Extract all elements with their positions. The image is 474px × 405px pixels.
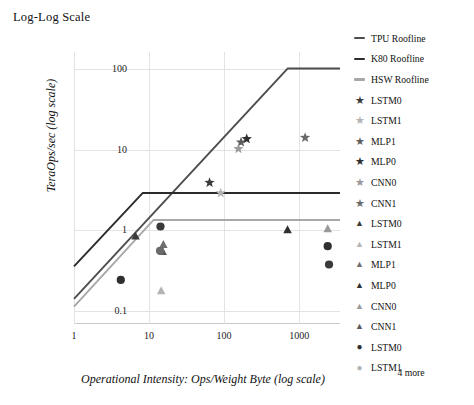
y-tick-label: 10 <box>87 144 127 155</box>
legend-more-label: 4 more <box>352 367 470 378</box>
star-icon: ★ <box>352 156 367 167</box>
legend-item-label: CNN1 <box>371 198 396 209</box>
legend-marker-glyph: ★ <box>355 198 365 209</box>
star-icon: ★ <box>352 177 367 188</box>
x-tick-label: 10 <box>129 330 169 341</box>
circle-icon: ● <box>352 342 367 352</box>
legend-item[interactable]: ★LSTM0 <box>352 90 470 111</box>
legend-marker-glyph: ▲ <box>355 240 364 249</box>
triangle-icon: ▲ <box>352 260 367 269</box>
legend-item[interactable]: ▲CNN1 <box>352 316 470 337</box>
legend-item-label: LSTM1 <box>371 239 402 250</box>
data-point-star <box>204 177 214 187</box>
star-icon: ★ <box>352 136 367 147</box>
y-tick-label: 100 <box>87 63 127 74</box>
legend-marker-glyph: ● <box>356 342 362 352</box>
triangle-icon: ▲ <box>352 281 367 290</box>
triangle-icon: ▲ <box>352 240 367 249</box>
y-tick-label: 0.1 <box>87 305 127 316</box>
x-tick-label: 100 <box>204 330 244 341</box>
y-tick-label: 1 <box>87 224 127 235</box>
line-icon <box>352 58 367 60</box>
x-axis-label: Operational Intensity: Ops/Weight Byte (… <box>38 372 368 387</box>
legend-item-label: LSTM1 <box>371 115 402 126</box>
triangle-icon: ▲ <box>352 322 367 331</box>
legend-item-label: CNN0 <box>371 177 396 188</box>
triangle-icon: ▲ <box>352 219 367 228</box>
legend-line-swatch <box>354 78 365 80</box>
legend-marker-glyph: ★ <box>355 136 365 147</box>
legend-item[interactable]: ●LSTM0 <box>352 337 470 358</box>
data-point-triangle <box>283 225 292 233</box>
legend-item[interactable]: ★CNN0 <box>352 172 470 193</box>
legend-marker-glyph: ★ <box>355 156 365 167</box>
legend-item[interactable]: TPU Roofline <box>352 28 470 49</box>
legend-marker-glyph: ★ <box>355 95 365 106</box>
legend-item[interactable]: ★CNN1 <box>352 193 470 214</box>
legend-line-swatch <box>354 37 365 39</box>
legend-item-label: MLP0 <box>371 156 396 167</box>
y-axis-label: TeraOps/sec (log scale) <box>44 41 59 231</box>
legend-item-label: MLP0 <box>371 280 396 291</box>
data-point-star <box>216 188 226 198</box>
line-icon <box>352 78 367 80</box>
legend-marker-glyph: ▲ <box>355 260 364 269</box>
data-point-circle <box>156 222 164 230</box>
data-point-triangle <box>159 240 168 248</box>
legend-item[interactable]: ▲LSTM1 <box>352 234 470 255</box>
data-point-circle <box>324 242 332 250</box>
legend-item-label: CNN0 <box>371 301 396 312</box>
legend-line-swatch <box>354 58 365 60</box>
legend-item[interactable]: ▲CNN0 <box>352 296 470 317</box>
legend-item[interactable]: ★MLP0 <box>352 152 470 173</box>
legend-item[interactable]: ▲MLP0 <box>352 275 470 296</box>
legend-marker-glyph: ★ <box>355 177 365 188</box>
page-title: Log-Log Scale <box>13 10 90 25</box>
x-tick-label: 1000 <box>279 330 319 341</box>
legend-item[interactable]: K80 Roofline <box>352 49 470 70</box>
data-point-triangle <box>157 286 166 294</box>
legend-item-label: LSTM0 <box>371 95 402 106</box>
triangle-icon: ▲ <box>352 302 367 311</box>
legend-marker-glyph: ▲ <box>355 219 364 228</box>
legend-marker-glyph: ▲ <box>355 302 364 311</box>
star-icon: ★ <box>352 115 367 126</box>
legend-item-label: LSTM0 <box>371 218 402 229</box>
legend-item[interactable]: ▲MLP1 <box>352 255 470 276</box>
legend-item-label: MLP1 <box>371 136 396 147</box>
legend-item[interactable]: ▲LSTM0 <box>352 213 470 234</box>
legend-item-label: MLP1 <box>371 259 396 270</box>
legend-item[interactable]: ★LSTM1 <box>352 110 470 131</box>
chart-legend: TPU RooflineK80 RooflineHSW Roofline★LST… <box>352 28 470 378</box>
data-point-circle <box>117 276 125 284</box>
legend-item-label: CNN1 <box>371 321 396 332</box>
legend-item-label: LSTM0 <box>371 342 402 353</box>
chart-graphics <box>74 52 340 324</box>
data-point-circle <box>325 260 333 268</box>
legend-item-label: TPU Roofline <box>371 33 426 44</box>
data-point-star <box>300 132 310 142</box>
x-tick-label: 1 <box>54 330 94 341</box>
legend-item-label: K80 Roofline <box>371 53 424 64</box>
star-icon: ★ <box>352 198 367 209</box>
line-icon <box>352 37 367 39</box>
star-icon: ★ <box>352 95 367 106</box>
legend-item[interactable]: HSW Roofline <box>352 69 470 90</box>
legend-marker-glyph: ▲ <box>355 281 364 290</box>
legend-marker-glyph: ▲ <box>355 322 364 331</box>
legend-item-label: HSW Roofline <box>371 74 429 85</box>
data-point-circle <box>156 247 164 255</box>
legend-item[interactable]: ★MLP1 <box>352 131 470 152</box>
data-point-triangle <box>323 224 332 232</box>
legend-marker-glyph: ★ <box>355 115 365 126</box>
